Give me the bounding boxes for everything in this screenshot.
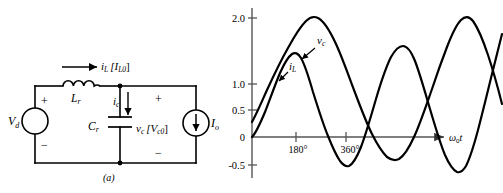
y-tick-0: 0 (240, 132, 245, 143)
source-plus-sign: + (41, 94, 48, 108)
inductor-coil-icon (63, 81, 100, 86)
voltage-source-symbol (22, 108, 48, 134)
voltage-source-label: Vd (8, 114, 20, 130)
vc-curve (252, 17, 502, 160)
current-source-label: Io (210, 116, 219, 132)
waveform-panel: 2.0 1.0 0.5 0 -0.5 180° 360° ω0t (230, 0, 503, 193)
figure-container: iL[IL0] Lr ic Cr vc[Vc0] Vd (0, 0, 503, 193)
capacitor-plus-sign: + (155, 92, 162, 106)
subfigure-caption-a: (a) (103, 172, 115, 183)
y-tick-1p0: 1.0 (232, 79, 245, 90)
inductor-current-label: iL[IL0] (101, 60, 130, 74)
il-curve-label: iL (289, 60, 296, 74)
x-tick-360: 360° (341, 144, 360, 155)
y-tick-0p5: 0.5 (232, 105, 245, 116)
inductor-label: Lr (70, 92, 81, 106)
capacitor-label: Cr (88, 120, 100, 134)
y-tick-m0p5: -0.5 (228, 160, 245, 171)
x-axis-title: ω0t (449, 132, 463, 145)
circuit-schematic-svg: iL[IL0] Lr ic Cr vc[Vc0] Vd (0, 0, 230, 193)
source-minus-sign: − (41, 138, 48, 152)
waveform-plot-svg: 2.0 1.0 0.5 0 -0.5 180° 360° ω0t (230, 0, 503, 193)
vc-curve-label: vc (317, 34, 326, 48)
capacitor-voltage-label: vc[Vc0] (136, 122, 168, 136)
y-tick-labels: 2.0 1.0 0.5 0 -0.5 (228, 13, 245, 171)
capacitor-current-label: ic (113, 95, 120, 109)
circuit-panel: iL[IL0] Lr ic Cr vc[Vc0] Vd (0, 0, 230, 193)
x-tick-180: 180° (289, 144, 308, 155)
vc-curve-annotation: vc (302, 34, 326, 59)
x-tick-labels: 180° 360° (289, 144, 360, 155)
current-source-symbol (183, 110, 209, 136)
capacitor-minus-sign: − (155, 146, 162, 160)
y-tick-2p0: 2.0 (232, 13, 245, 24)
capacitor-plates-icon (108, 117, 132, 127)
